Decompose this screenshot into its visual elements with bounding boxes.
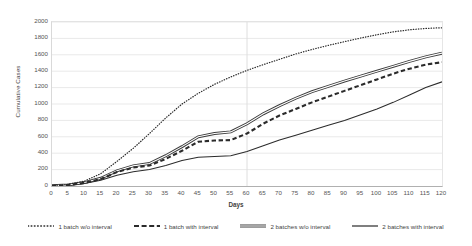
x-tick-label: 15 bbox=[96, 189, 103, 196]
x-tick-label: 65 bbox=[259, 189, 266, 196]
x-tick-label: 110 bbox=[404, 189, 414, 196]
x-tick-label: 5 bbox=[66, 189, 69, 196]
x-tick-label: 55 bbox=[226, 189, 233, 196]
x-tick-label: 80 bbox=[308, 189, 315, 196]
legend-label: 1 batch with interval bbox=[164, 223, 219, 230]
legend-item-0[interactable]: 1 batch w/o interval bbox=[28, 222, 111, 230]
x-tick-label: 120 bbox=[436, 189, 446, 196]
legend-item-1[interactable]: 1 batch with interval bbox=[134, 222, 219, 230]
plot-area bbox=[51, 21, 443, 187]
y-axis-title: Cumulative Cases bbox=[14, 52, 21, 132]
legend-item-3[interactable]: 2 batches with interval bbox=[352, 222, 443, 230]
x-axis-tick-labels: 0510152025303540455055606570758085909510… bbox=[0, 189, 472, 201]
x-tick-label: 105 bbox=[387, 189, 397, 196]
y-tick-label: 1800 bbox=[34, 34, 48, 40]
x-tick-label: 95 bbox=[356, 189, 363, 196]
y-tick-label: 1400 bbox=[34, 67, 48, 73]
y-tick-label: 0 bbox=[45, 182, 48, 188]
x-tick-label: 30 bbox=[145, 189, 152, 196]
x-tick-label: 35 bbox=[161, 189, 168, 196]
y-tick-label: 600 bbox=[38, 133, 48, 139]
legend-swatch-solid-icon bbox=[352, 222, 378, 230]
legend-item-2[interactable]: 2 batches w/o interval bbox=[240, 222, 330, 230]
x-tick-label: 45 bbox=[194, 189, 201, 196]
legend-swatch-dashed-icon bbox=[134, 222, 160, 230]
x-tick-label: 10 bbox=[80, 189, 87, 196]
plot-svg bbox=[52, 22, 442, 186]
x-tick-label: 85 bbox=[324, 189, 331, 196]
y-tick-label: 400 bbox=[38, 149, 48, 155]
x-tick-label: 100 bbox=[371, 189, 381, 196]
x-tick-label: 115 bbox=[420, 189, 430, 196]
x-tick-label: 40 bbox=[178, 189, 185, 196]
x-tick-label: 90 bbox=[340, 189, 347, 196]
y-tick-label: 1600 bbox=[34, 51, 48, 57]
x-tick-label: 50 bbox=[210, 189, 217, 196]
y-axis-tick-labels: 0200400600800100012001400160018002000 bbox=[22, 0, 48, 200]
chart-legend: 1 batch w/o interval1 batch with interva… bbox=[0, 222, 472, 230]
x-tick-label: 25 bbox=[129, 189, 136, 196]
x-tick-label: 75 bbox=[291, 189, 298, 196]
legend-label: 2 batches w/o interval bbox=[270, 223, 330, 230]
y-tick-label: 200 bbox=[38, 165, 48, 171]
x-tick-label: 20 bbox=[113, 189, 120, 196]
legend-swatch-double-icon bbox=[240, 222, 266, 230]
grid-lines bbox=[52, 22, 442, 186]
x-tick-label: 0 bbox=[49, 189, 52, 196]
legend-label: 2 batches with interval bbox=[382, 223, 443, 230]
legend-label: 1 batch w/o interval bbox=[58, 223, 111, 230]
y-tick-label: 2000 bbox=[34, 18, 48, 24]
cumulative-cases-line-chart: Cumulative Cases 02004006008001000120014… bbox=[0, 0, 472, 246]
x-axis-title: Days bbox=[0, 201, 472, 208]
y-tick-label: 800 bbox=[38, 116, 48, 122]
y-tick-label: 1200 bbox=[34, 83, 48, 89]
x-tick-label: 60 bbox=[243, 189, 250, 196]
legend-swatch-dotted-icon bbox=[28, 222, 54, 230]
x-tick-label: 70 bbox=[275, 189, 282, 196]
y-tick-label: 1000 bbox=[34, 100, 48, 106]
